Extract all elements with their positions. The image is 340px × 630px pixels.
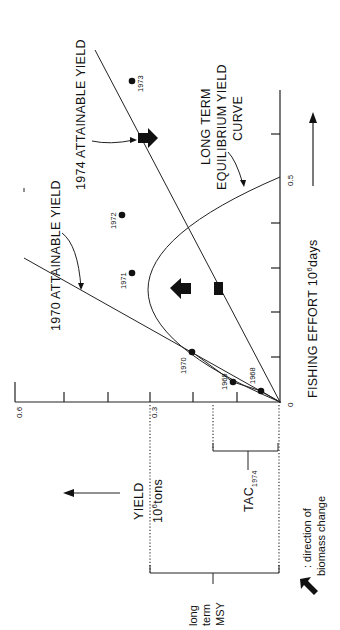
msy-bracket — [150, 565, 279, 573]
biomass-change-arrow-down-effort — [138, 128, 158, 148]
arrowhead-curve — [240, 180, 246, 187]
yield-axis-title: YIELD — [132, 482, 146, 520]
tick-label-0.3: 0.3 — [150, 406, 159, 418]
msy-label-line2: term — [200, 604, 212, 626]
legend-biomass-arrow-icon — [300, 577, 318, 595]
arrow-1974-label — [92, 140, 134, 143]
year-label-1969: 1969 — [220, 373, 229, 390]
arrow-1970-label — [62, 233, 81, 288]
data-point-1971 — [129, 270, 136, 277]
data-point-1972 — [119, 212, 126, 219]
legend-line2: biomass change — [315, 496, 327, 576]
year-label-1973: 1973 — [136, 75, 145, 92]
tac-bracket — [213, 443, 278, 451]
effort-axis-title: FISHING EFFORT 106days — [305, 239, 320, 398]
position-1974-marker — [214, 282, 223, 295]
label-1974-attainable-yield: 1974 ATTAINABLE YIELD — [74, 39, 88, 190]
data-point-1969 — [230, 379, 237, 386]
label-curve-line3: CURVE — [231, 96, 245, 141]
legend-line1: : direction of — [301, 507, 313, 568]
label-1970-attainable-yield: 1970 ATTAINABLE YIELD — [49, 180, 63, 331]
year-label-1968: 1968 — [248, 367, 257, 384]
arrow-curve-label — [228, 152, 243, 184]
tick-label-0.5: 0.5 — [286, 174, 295, 186]
tac-label: TAC1974 — [242, 470, 258, 512]
effort-arrowhead — [309, 112, 317, 123]
attainable-yield-1974-line — [95, 50, 280, 402]
label-curve-line1: LONG TERM — [199, 88, 213, 165]
msy-label-line1: long — [187, 605, 199, 626]
tick-label-0.6: 0.6 — [15, 406, 24, 418]
label-curve-line2: EQUILIBRIUM YIELD — [215, 64, 229, 190]
data-point-1970 — [189, 349, 196, 356]
yield-arrowhead — [63, 489, 74, 497]
tick-label-0: 0 — [286, 402, 295, 407]
year-label-1971: 1971 — [119, 272, 128, 289]
year-label-1970: 1970 — [179, 357, 188, 374]
year-label-1972: 1972 — [109, 212, 118, 229]
biomass-change-arrow-up-yield — [170, 278, 191, 299]
arrowhead-1974 — [130, 137, 137, 143]
yield-axis-unit: 106tons — [150, 479, 165, 523]
msy-label-line3: MSY — [214, 602, 226, 627]
fishery-yield-chart: 0 0.5 0.3 0.6 1968 1969 1970 1971 1972 1… — [0, 0, 340, 630]
data-point-1968 — [258, 388, 265, 395]
data-point-1973 — [129, 78, 136, 85]
